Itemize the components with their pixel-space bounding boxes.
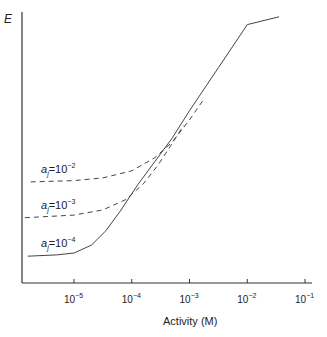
x-tick-label-2: 10−3 [180, 292, 199, 305]
y-axis-label: E [4, 12, 13, 26]
series-label-2: aj=10−4 [41, 236, 75, 252]
series-label-1: aj=10−3 [41, 198, 75, 214]
x-tick-label-1: 10−4 [122, 292, 141, 305]
series-line-2 [28, 17, 279, 256]
series-label-0: aj=10−2 [41, 162, 75, 178]
x-tick-label-3: 10−2 [237, 292, 256, 305]
x-tick-label-4: 10−1 [295, 292, 314, 305]
x-tick-label-0: 10−5 [64, 292, 83, 305]
chart: E Activity (M) 10−510−410−310−210−1 aj=1… [0, 0, 327, 337]
x-axis-label: Activity (M) [163, 315, 217, 327]
